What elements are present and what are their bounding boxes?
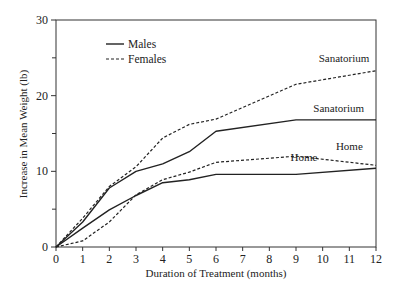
y-tick-label: 0 bbox=[42, 240, 48, 254]
legend-label-males: Males bbox=[128, 38, 157, 50]
x-tick-label: 6 bbox=[213, 252, 219, 266]
x-tick-label: 2 bbox=[106, 252, 112, 266]
x-tick-label: 9 bbox=[293, 252, 299, 266]
data-series bbox=[56, 71, 376, 247]
x-axis-title: Duration of Treatment (months) bbox=[146, 267, 287, 280]
x-tick-label: 12 bbox=[370, 252, 382, 266]
y-axis-title: Increase in Mean Weight (lb) bbox=[17, 69, 30, 198]
x-tick-label: 3 bbox=[133, 252, 139, 266]
series-annotation: Sanatorium bbox=[313, 102, 364, 114]
y-tick-label: 20 bbox=[36, 89, 48, 103]
chart-legend: Males Females bbox=[106, 38, 167, 65]
x-tick-label: 4 bbox=[160, 252, 166, 266]
x-tick-label: 5 bbox=[186, 252, 192, 266]
y-tick-label: 10 bbox=[36, 164, 48, 178]
x-tick-label: 8 bbox=[266, 252, 272, 266]
series-line-males-home bbox=[56, 168, 376, 247]
series-line-females-home bbox=[56, 156, 376, 247]
series-line-males-sanatorium bbox=[56, 120, 376, 247]
y-tick-label: 30 bbox=[36, 13, 48, 27]
x-tick-label: 7 bbox=[240, 252, 246, 266]
series-annotation: Sanatorium bbox=[319, 52, 370, 64]
series-annotation: Home bbox=[336, 140, 363, 152]
x-tick-label: 11 bbox=[344, 252, 356, 266]
x-tick-label: 0 bbox=[53, 252, 59, 266]
line-chart: 01234567891011120102030 SanatoriumSanato… bbox=[0, 0, 397, 297]
legend-label-females: Females bbox=[128, 53, 167, 65]
series-line-females-sanatorium bbox=[56, 71, 376, 247]
series-annotation: Home bbox=[291, 151, 318, 163]
series-annotations: SanatoriumSanatoriumHomeHome bbox=[291, 52, 370, 164]
x-tick-label: 1 bbox=[80, 252, 86, 266]
x-tick-label: 10 bbox=[317, 252, 329, 266]
